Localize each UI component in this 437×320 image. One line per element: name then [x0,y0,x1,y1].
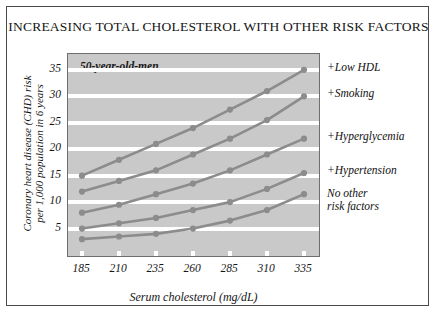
data-point-marker [190,207,196,213]
x-tickmark [302,251,306,256]
data-point-marker [190,125,196,131]
figure-frame: INCREASING TOTAL CHOLESTEROL WITH OTHER … [6,6,429,306]
series-label: +Hypertension [327,164,397,177]
series-label-line1: +Hypertension [327,164,397,176]
x-tick-label: 310 [246,262,286,274]
series-label-line1: +Hyperglycemia [327,130,405,142]
series-label: No otherrisk factors [327,187,379,213]
series-line [82,70,304,176]
series-label: +Low HDL [327,61,380,74]
data-point-marker [264,207,270,213]
data-point-marker [301,67,307,73]
data-point-marker [227,199,233,205]
series-label-line1: No other [327,187,368,199]
data-point-marker [79,173,85,179]
series-label: +Hyperglycemia [327,130,405,143]
y-tick-label: 35 [35,62,61,74]
data-point-marker [301,136,307,142]
x-tick-label: 210 [98,262,138,274]
data-point-marker [116,220,122,226]
data-point-marker [227,106,233,112]
data-point-marker [190,151,196,157]
data-point-marker [116,157,122,163]
data-point-marker [264,117,270,123]
y-axis-title-line1: Coronary heart disease (CHD) risk [21,75,33,231]
series-lines [68,54,318,255]
data-point-marker [116,233,122,239]
series-line [82,96,304,191]
data-point-marker [301,93,307,99]
y-tick-label: 25 [35,115,61,127]
data-point-marker [227,136,233,142]
x-tick-label: 185 [61,262,101,274]
x-tick-label: 285 [209,262,249,274]
x-tickmark [117,251,121,256]
x-tick-label: 335 [283,262,323,274]
data-point-marker [116,202,122,208]
data-point-marker [264,151,270,157]
data-point-marker [190,180,196,186]
page-title: INCREASING TOTAL CHOLESTEROL WITH OTHER … [7,19,430,35]
data-point-marker [153,141,159,147]
x-axis-title: Serum cholesterol (mg/dL) [67,290,320,305]
y-tick-label: 30 [35,88,61,100]
x-tickmark [228,251,232,256]
data-point-marker [116,178,122,184]
series-label: +Smoking [327,87,374,100]
data-point-marker [153,231,159,237]
y-tick-label: 5 [35,221,61,233]
x-tick-label: 235 [135,262,175,274]
data-point-marker [79,210,85,216]
series-label-line1: +Smoking [327,87,374,99]
series-line [82,194,304,239]
data-point-marker [264,88,270,94]
x-tickmark [80,251,84,256]
x-tickmark [265,251,269,256]
series-label-line2: risk factors [327,200,379,212]
x-tick-label: 260 [172,262,212,274]
data-point-marker [190,225,196,231]
series-label-line1: +Low HDL [327,61,380,73]
data-point-marker [264,186,270,192]
data-point-marker [79,236,85,242]
series-line [82,139,304,213]
data-point-marker [301,191,307,197]
data-point-marker [79,188,85,194]
data-point-marker [227,218,233,224]
data-point-marker [301,170,307,176]
plot-area: 50-year-old-men [67,53,320,257]
y-tick-label: 15 [35,168,61,180]
data-point-marker [153,167,159,173]
data-point-marker [153,191,159,197]
y-tick-label: 20 [35,141,61,153]
x-tickmark [154,251,158,256]
data-point-marker [79,225,85,231]
data-point-marker [153,215,159,221]
y-tick-label: 10 [35,194,61,206]
data-point-marker [227,167,233,173]
x-tickmark [191,251,195,256]
